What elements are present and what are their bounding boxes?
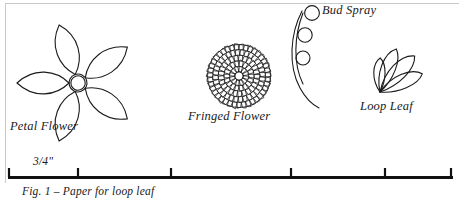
shape-bud-spray: [292, 6, 319, 108]
petal-flower-petal: [49, 22, 86, 78]
fringe-mark: [234, 61, 239, 67]
loop-leaf-loop: [374, 50, 420, 96]
petal-flower-petal: [17, 72, 69, 94]
fringe-mark: [253, 88, 260, 95]
shape-fringed-flower: [206, 44, 271, 109]
fringe-mark: [213, 71, 219, 76]
fringe-mark: [220, 90, 226, 97]
petal-flower-petal: [49, 88, 86, 144]
petal-flower-petal: [79, 38, 134, 86]
fringe-mark: [260, 89, 267, 95]
fringe-mark: [238, 91, 242, 97]
bud-spray-bud: [305, 6, 320, 21]
fringe-mark: [237, 102, 241, 108]
label-fringed-flower: Fringed Flower: [188, 109, 270, 124]
fringe-mark: [218, 76, 224, 80]
fringe-mark: [226, 65, 233, 71]
fringe-mark: [254, 74, 260, 78]
fringe-mark: [234, 96, 239, 102]
fringe-mark: [213, 75, 219, 79]
figure-page: Petal Flower Fringed Flower Bud Spray Lo…: [0, 0, 459, 200]
scale-bar-ticks: [9, 168, 451, 177]
scale-bar: [8, 168, 453, 178]
label-loop-leaf: Loop Leaf: [360, 99, 413, 114]
bud-spray-bud: [298, 28, 312, 42]
figure-caption: Fig. 1 – Paper for loop leaf: [22, 185, 154, 197]
fringe-mark: [248, 85, 255, 92]
shape-loop-leaf: [372, 46, 425, 97]
fringe-mark: [238, 97, 242, 103]
label-petal-flower: Petal Flower: [10, 119, 78, 134]
label-bud-spray: Bud Spray: [322, 3, 376, 18]
scale-bar-value-label: 3/4": [33, 155, 53, 167]
bud-spray-bud: [296, 51, 310, 65]
fringe-mark: [224, 74, 230, 78]
fringe-mark: [236, 49, 240, 55]
fringe-mark: [239, 85, 243, 91]
fringe-mark: [221, 54, 228, 61]
fringed-flower-center: [235, 72, 244, 81]
fringe-mark: [257, 93, 264, 99]
petal-flower-petal: [79, 79, 134, 127]
fringe-ring: [235, 72, 243, 80]
fringe-mark: [251, 48, 257, 55]
